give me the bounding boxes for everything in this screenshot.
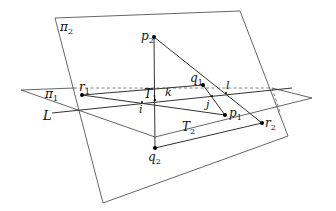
label-p1: p1 — [229, 106, 242, 122]
label-q2: q2 — [148, 150, 161, 166]
point-p1 — [223, 113, 227, 117]
plane-pi2 — [55, 11, 288, 203]
label-l: l — [226, 79, 230, 92]
label-T2: T2 — [182, 120, 195, 136]
label-pi1: π1 — [44, 87, 58, 103]
label-r1: r1 — [79, 80, 90, 96]
label-r2: r2 — [265, 116, 276, 132]
label-pi2: π2 — [59, 20, 73, 36]
label-i: i — [139, 103, 143, 116]
label-k: k — [165, 86, 172, 99]
label-p2: p2 — [141, 29, 154, 45]
label-j: j — [203, 98, 210, 111]
point-l — [225, 92, 227, 94]
label-L: L — [42, 108, 52, 123]
two-planes-triangles-diagram: π2 π1 L T1 T2 p2 q1 p1 r1 r2 q2 i k j l — [0, 0, 336, 211]
plane-pi2-hidden-edge — [272, 88, 280, 112]
point-j — [211, 95, 213, 97]
point-r2 — [260, 121, 264, 125]
label-q1: q1 — [190, 71, 203, 87]
